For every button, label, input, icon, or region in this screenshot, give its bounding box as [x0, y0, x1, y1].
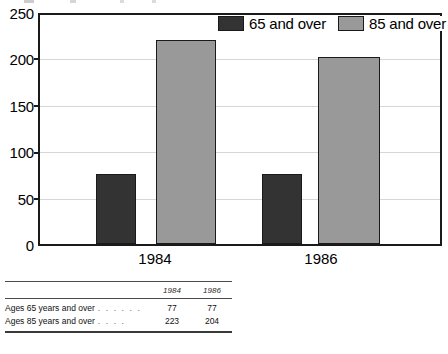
table-header-label-spacer	[5, 285, 152, 296]
table-header-1984: 1984	[152, 285, 192, 296]
bar-1984-65-and-over	[96, 174, 136, 244]
bar-1986-65-and-over	[262, 174, 302, 244]
scan-artifact	[24, 0, 194, 3]
table-row: Ages 65 years and over. . . . . . 77 77	[5, 302, 232, 315]
plot-area	[38, 13, 442, 246]
legend-item-85-and-over: 85 and over	[338, 16, 446, 31]
table-rule-bottom	[5, 331, 232, 333]
y-axis-label-250: 250	[10, 6, 34, 21]
table-row-leader-85: . . . .	[95, 316, 126, 326]
gridline-100	[40, 152, 440, 153]
y-axis-label-50: 50	[18, 192, 34, 207]
bar-chart-figure: 250 200 150 100 50 0 1984 1986 65 and ov…	[0, 0, 448, 272]
table-cell-85-1984: 223	[152, 316, 192, 327]
table-cell-65-1984: 77	[152, 303, 192, 314]
table-row: Ages 85 years and over. . . . 223 204	[5, 315, 232, 328]
y-axis-label-100: 100	[10, 145, 34, 160]
table-cell-65-1986: 77	[192, 303, 232, 314]
legend-label-65-and-over: 65 and over	[249, 16, 326, 31]
data-table: 1984 1986 Ages 65 years and over. . . . …	[5, 281, 232, 333]
y-axis-label-150: 150	[10, 99, 34, 114]
gridline-150	[40, 106, 440, 107]
bar-1986-85-and-over	[318, 57, 380, 244]
x-axis-label-1984: 1984	[125, 250, 185, 267]
y-axis-label-200: 200	[10, 52, 34, 67]
chart-legend: 65 and over 85 and over	[218, 16, 446, 31]
x-axis-label-1986: 1986	[291, 250, 351, 267]
legend-swatch-icon-65-and-over	[218, 16, 244, 31]
table-row-label-85-text: Ages 85 years and over	[5, 316, 95, 326]
y-axis-label-0: 0	[26, 238, 34, 253]
legend-label-85-and-over: 85 and over	[369, 16, 446, 31]
bar-1984-85-and-over	[156, 40, 216, 244]
table-header-1986: 1986	[192, 285, 232, 296]
table-row-label-65-text: Ages 65 years and over	[5, 303, 95, 313]
table-row-label-85: Ages 85 years and over. . . .	[5, 316, 152, 327]
table-row-label-65: Ages 65 years and over. . . . . .	[5, 303, 152, 314]
legend-item-65-and-over: 65 and over	[218, 16, 326, 31]
gridline-200	[40, 59, 440, 60]
table-body: Ages 65 years and over. . . . . . 77 77 …	[5, 299, 232, 331]
table-row-leader-65: . . . . . .	[95, 303, 142, 313]
legend-swatch-icon-85-and-over	[338, 16, 364, 31]
table-header-row: 1984 1986	[5, 282, 232, 298]
table-cell-85-1986: 204	[192, 316, 232, 327]
